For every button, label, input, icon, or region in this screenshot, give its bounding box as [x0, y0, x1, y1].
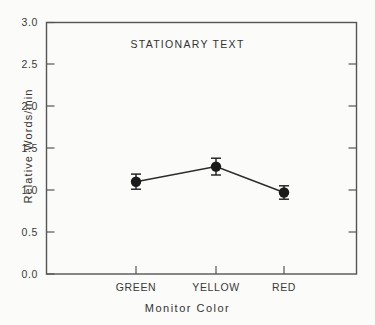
plot-frame — [47, 23, 357, 275]
y-axis-title: Relative Words/min — [22, 56, 34, 236]
y-axis-ticks-right — [349, 64, 357, 232]
x-tick-label-green: GREEN — [91, 281, 181, 293]
data-point-yellow — [211, 161, 221, 171]
x-axis-title: Monitor Color — [0, 302, 375, 314]
chart-title: STATIONARY TEXT — [0, 38, 375, 50]
x-tick-label-red: RED — [239, 281, 329, 293]
data-point-green — [131, 177, 141, 187]
x-axis-ticks — [136, 266, 284, 274]
data-line-series — [136, 167, 284, 193]
y-axis-ticks — [47, 23, 55, 275]
figure-container: 3.0 2.5 2.0 1.5 1.0 0.5 0.0 GREEN YELLOW… — [0, 0, 375, 325]
y-tick-label-3-0: 3.0 — [4, 16, 38, 28]
data-markers — [131, 161, 289, 197]
y-tick-label-0-0: 0.0 — [4, 268, 38, 280]
data-point-red — [279, 187, 289, 197]
